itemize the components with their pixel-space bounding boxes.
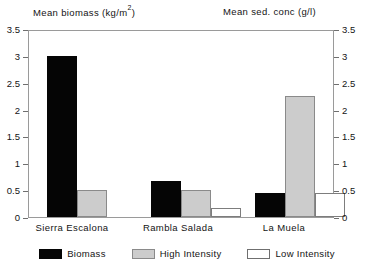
category-label: Sierra Escalona (12, 222, 132, 233)
bar-biomass (151, 181, 181, 217)
legend-swatch-high (132, 249, 155, 259)
right-tick-label: 1 (342, 159, 372, 169)
bar-high (181, 190, 211, 217)
left-tick-mark (23, 137, 28, 138)
chart-figure: Mean biomass (kg/m2) Mean sed. conc (g/l… (0, 0, 374, 271)
right-tick-mark (334, 164, 339, 165)
legend-item: High Intensity (132, 248, 222, 259)
bar-high (77, 190, 107, 217)
bars-layer (29, 31, 333, 217)
right-axis-title: Mean sed. conc (g/l) (223, 6, 316, 17)
left-tick-mark (23, 30, 28, 31)
right-tick-label: 3 (342, 52, 372, 62)
left-tick-label: 0.5 (0, 186, 20, 196)
left-tick-label: 1.5 (0, 132, 20, 142)
left-tick-mark (23, 84, 28, 85)
left-tick-label: 1 (0, 159, 20, 169)
legend-swatch-low (247, 249, 270, 259)
left-axis-unit-open: (kg/m (102, 7, 128, 18)
left-axis-unit-exponent: 2 (127, 4, 131, 11)
left-tick-mark (23, 218, 28, 219)
right-tick-label: 2.5 (342, 79, 372, 89)
category-label: La Muela (224, 222, 344, 233)
legend-swatch-biomass (39, 249, 62, 259)
right-tick-label: 0 (342, 213, 372, 223)
right-tick-mark (334, 30, 339, 31)
plot-area (28, 30, 334, 218)
bar-group (151, 31, 241, 217)
left-tick-label: 2.5 (0, 79, 20, 89)
left-tick-label: 3 (0, 52, 20, 62)
legend-label: High Intensity (160, 248, 222, 259)
right-tick-label: 2 (342, 106, 372, 116)
legend-item: Biomass (39, 248, 106, 259)
bar-high (285, 96, 315, 217)
bar-group (255, 31, 345, 217)
left-tick-mark (23, 111, 28, 112)
right-tick-mark (334, 191, 339, 192)
bar-biomass (255, 193, 285, 217)
right-tick-label: 1.5 (342, 132, 372, 142)
bar-low (315, 193, 345, 217)
right-tick-mark (334, 137, 339, 138)
legend-item: Low Intensity (247, 248, 334, 259)
left-tick-mark (23, 57, 28, 58)
right-tick-mark (334, 218, 339, 219)
right-tick-mark (334, 111, 339, 112)
chart-legend: BiomassHigh IntensityLow Intensity (0, 248, 374, 259)
left-tick-label: 3.5 (0, 25, 20, 35)
left-axis-unit-close: ) (132, 7, 136, 18)
left-axis-title: Mean biomass (kg/m2) (33, 6, 135, 18)
right-tick-label: 0.5 (342, 186, 372, 196)
left-tick-mark (23, 164, 28, 165)
left-axis-title-text: Mean biomass (33, 7, 99, 18)
left-tick-label: 2 (0, 106, 20, 116)
legend-label: Biomass (67, 248, 106, 259)
right-tick-mark (334, 57, 339, 58)
bar-biomass (47, 56, 77, 217)
bar-low (211, 208, 241, 217)
left-tick-mark (23, 191, 28, 192)
category-label: Rambla Salada (118, 222, 238, 233)
legend-label: Low Intensity (275, 248, 334, 259)
right-tick-label: 3.5 (342, 25, 372, 35)
bar-group (47, 31, 137, 217)
right-tick-mark (334, 84, 339, 85)
